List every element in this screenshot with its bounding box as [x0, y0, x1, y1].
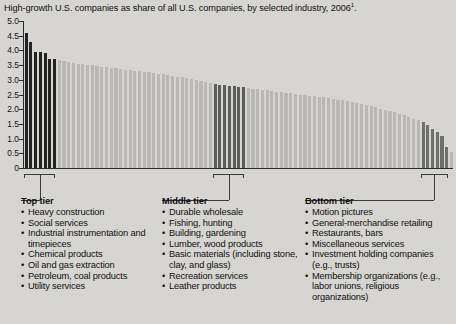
bar [436, 132, 439, 168]
tier-item-label: Industrial instrumentation and timepiece… [28, 228, 161, 249]
bar [199, 81, 202, 168]
tier-item-label: Basic materials (including stone, clay, … [169, 249, 304, 270]
bracket-right-cap [243, 174, 244, 178]
tier-heading-bottom: Bottom tier [305, 196, 455, 206]
tier-list-bottom: •Motion pictures•General-merchandise ret… [305, 207, 455, 302]
y-axis-tick-label: 2.5 [7, 91, 19, 99]
tier-bracket [213, 169, 244, 178]
bar [365, 105, 368, 168]
bar [228, 86, 231, 168]
bar [204, 82, 207, 168]
bullet-icon: • [21, 249, 24, 260]
tier-list-item: •Petroleum, coal products [21, 271, 161, 282]
bar [426, 125, 429, 168]
tier-bracket [24, 169, 55, 178]
bullet-icon: • [21, 218, 24, 229]
bar [185, 78, 188, 168]
bar [275, 92, 278, 168]
y-axis-tick-label: 0.5 [7, 149, 19, 157]
bullet-icon: • [305, 228, 308, 239]
bar [138, 71, 141, 168]
bar [105, 67, 108, 168]
y-axis-tick-mark [19, 153, 23, 154]
bar [34, 52, 37, 168]
tier-list-item: •Heavy construction [21, 207, 161, 218]
bar [303, 95, 306, 168]
bar [53, 59, 56, 168]
bullet-icon: • [305, 239, 308, 250]
tier-list-item: •Chemical products [21, 249, 161, 260]
bar [67, 62, 70, 168]
y-axis-tick-label: 4.0 [7, 46, 19, 54]
bullet-icon: • [305, 249, 308, 260]
bar [299, 95, 302, 169]
bar [360, 104, 363, 168]
bar [214, 84, 217, 168]
title-trailing: . [354, 3, 356, 13]
tier-list-item: •Restaurants, bars [305, 228, 455, 239]
chart-page: High-growth U.S. companies as share of a… [0, 0, 456, 324]
bracket-stem [434, 174, 435, 183]
bar [218, 85, 221, 168]
bullet-icon: • [21, 281, 24, 292]
bar [332, 99, 335, 168]
bar [284, 93, 287, 168]
bar [379, 109, 382, 168]
bullet-icon: • [162, 281, 165, 292]
bullet-icon: • [162, 218, 165, 229]
bar [91, 65, 94, 168]
bracket-right-cap [54, 174, 55, 178]
bar [351, 102, 354, 168]
y-axis-tick-mark [19, 95, 23, 96]
bar [445, 147, 448, 168]
bar [294, 94, 297, 168]
tier-list-item: •Membership organizations (e.g., labor u… [305, 271, 455, 303]
y-axis-tick-mark [19, 65, 23, 66]
bar [412, 119, 415, 168]
bar [431, 129, 434, 168]
tier-bracket [421, 169, 448, 178]
bar [355, 103, 358, 168]
tier-list-item: •Building, gardening [162, 228, 304, 239]
bar [256, 89, 259, 168]
tier-item-label: Petroleum, coal products [28, 271, 161, 282]
tier-list-middle: •Durable wholesale•Fishing, hunting•Buil… [162, 207, 304, 292]
bar [398, 114, 401, 168]
bar [346, 101, 349, 168]
tier-item-label: Restaurants, bars [312, 228, 455, 239]
bar [336, 100, 339, 169]
tier-item-label: Durable wholesale [169, 207, 304, 218]
tier-item-label: Chemical products [28, 249, 161, 260]
bar [233, 86, 236, 168]
tier-list-item: •Utility services [21, 281, 161, 292]
plot-area [24, 21, 454, 168]
bar [407, 117, 410, 168]
bar [114, 68, 117, 168]
y-axis: 5.04.54.03.53.02.52.01.51.00.50 [0, 16, 24, 168]
tier-item-label: Investment holding companies (e.g., trus… [312, 249, 455, 270]
bar [110, 68, 113, 168]
bar [129, 70, 132, 168]
bar [77, 64, 80, 168]
tier-item-label: Leather products [169, 281, 304, 292]
bar [100, 67, 103, 168]
bar [176, 77, 179, 168]
bar [341, 100, 344, 168]
bar [251, 89, 254, 168]
bullet-icon: • [305, 207, 308, 218]
bar [157, 74, 160, 168]
bar [393, 112, 396, 168]
bar [403, 115, 406, 168]
bar [450, 152, 453, 168]
bullet-icon: • [21, 228, 24, 239]
tier-item-label: Miscellaneous services [312, 239, 455, 250]
tier-list-item: •Fishing, hunting [162, 218, 304, 229]
tier-item-label: Lumber, wood products [169, 239, 304, 250]
tier-list-item: •Basic materials (including stone, clay,… [162, 249, 304, 270]
bar [384, 110, 387, 168]
bar [195, 80, 198, 168]
y-axis-tick-mark [19, 139, 23, 140]
bar [58, 60, 61, 168]
bar [143, 72, 146, 168]
y-axis-tick-label: 3.5 [7, 61, 19, 69]
